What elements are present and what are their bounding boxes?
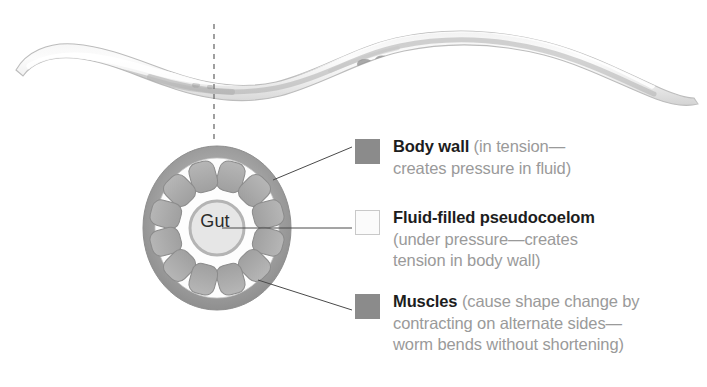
gut-label: Gut — [186, 211, 244, 232]
legend-term-muscles: Muscles — [393, 292, 457, 310]
legend-term-body-wall: Body wall — [393, 137, 469, 155]
pseudocoelom-swatch-icon — [355, 210, 380, 235]
muscles-swatch-icon — [355, 294, 380, 319]
body-wall-swatch-icon — [355, 139, 380, 164]
legend-text-pseudocoelom: Fluid-filled pseudocoelom (under pressur… — [393, 207, 595, 272]
legend-description-pseudocoelom: (under pressure—creates tension in body … — [393, 230, 578, 270]
worm-body — [0, 8, 707, 128]
worm-photograph — [0, 8, 707, 128]
legend-text-body-wall: Body wall (in tension— creates pressure … — [393, 136, 571, 179]
nematode-hydrostatic-skeleton-figure: Gut Body wall (in tension— creates press… — [0, 0, 707, 387]
legend-term-pseudocoelom: Fluid-filled pseudocoelom — [393, 208, 595, 226]
legend-text-muscles: Muscles (cause shape change by contracti… — [393, 291, 640, 356]
